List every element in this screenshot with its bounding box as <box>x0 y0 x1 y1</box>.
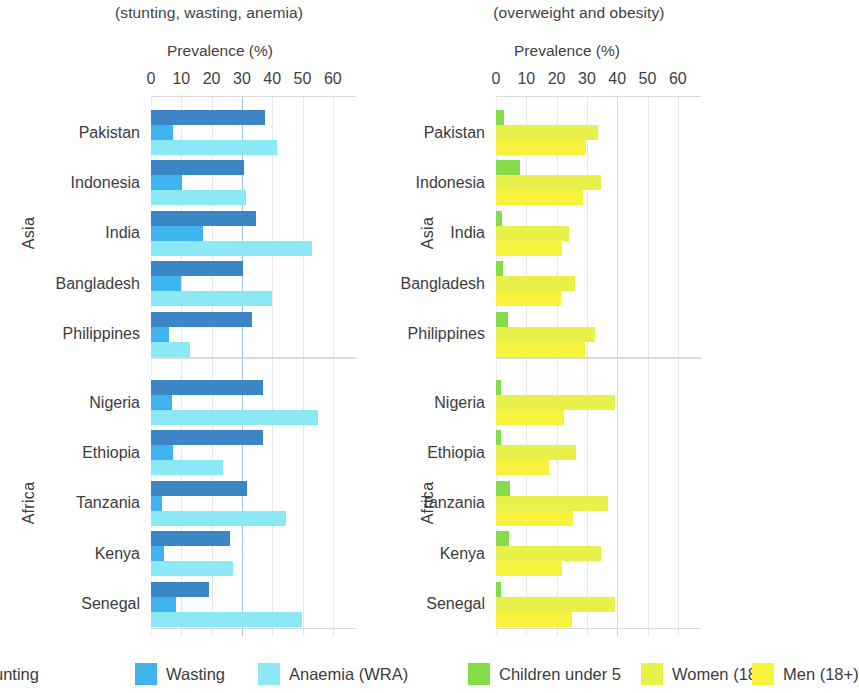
bar-tanzania-stunting <box>151 481 247 496</box>
legend-label: Men (18+) <box>783 665 859 684</box>
country-label-kenya: Kenya <box>95 545 140 563</box>
country-label-india: India <box>105 224 140 242</box>
bar-pakistan-wasting <box>151 125 173 140</box>
x-tick-60: 60 <box>669 70 687 88</box>
country-label-tanzania: Tanzania <box>76 494 140 512</box>
group-separator-africa-bottom <box>496 628 701 629</box>
bar-nigeria-women-18- <box>496 395 615 410</box>
legend-swatch-icon <box>258 663 280 685</box>
bar-ethiopia-stunting <box>151 430 263 445</box>
bar-indonesia-women-18- <box>496 175 601 190</box>
group-separator-top-africa <box>496 357 701 358</box>
bar-kenya-men-18- <box>496 561 562 576</box>
bar-senegal-stunting <box>151 582 209 597</box>
bar-philippines-anaemia-wra- <box>151 342 190 357</box>
legend-swatch-icon <box>752 663 774 685</box>
x-tick-40: 40 <box>608 70 626 88</box>
panel-right-plot-area <box>496 96 701 636</box>
country-label-pakistan: Pakistan <box>79 124 140 142</box>
bar-nigeria-stunting <box>151 380 263 395</box>
country-label-philippines: Philippines <box>63 325 140 343</box>
bar-indonesia-children-under-5 <box>496 160 520 175</box>
legend-label: Anaemia (WRA) <box>289 665 408 684</box>
country-label-bangladesh: Bangladesh <box>400 275 485 293</box>
country-label-senegal: Senegal <box>426 595 485 613</box>
bar-ethiopia-children-under-5 <box>496 430 501 445</box>
gridline-50 <box>303 96 304 636</box>
gridline-40 <box>617 96 618 636</box>
country-label-pakistan: Pakistan <box>424 124 485 142</box>
x-tick-30: 30 <box>578 70 596 88</box>
bar-philippines-men-18- <box>496 342 585 357</box>
bar-indonesia-men-18- <box>496 190 583 205</box>
legend-item-wasting[interactable]: Wasting <box>135 655 225 693</box>
bar-india-anaemia-wra- <box>151 241 312 256</box>
x-tick-50: 50 <box>294 70 312 88</box>
bar-philippines-children-under-5 <box>496 312 508 327</box>
panel-left-tick-labels: 0102030405060 <box>151 70 356 90</box>
legend-item-stunting[interactable]: unting <box>0 655 39 693</box>
bar-senegal-women-18- <box>496 597 615 612</box>
bar-indonesia-anaemia-wra- <box>151 190 246 205</box>
bar-pakistan-women-18- <box>496 125 598 140</box>
x-tick-10: 10 <box>517 70 535 88</box>
legend-item-children-under-5[interactable]: Children under 5 <box>468 655 621 693</box>
group-separator-top-asia <box>496 96 701 97</box>
bar-nigeria-wasting <box>151 395 172 410</box>
legend-swatch-icon <box>468 663 490 685</box>
x-tick-0: 0 <box>147 70 156 88</box>
bar-tanzania-children-under-5 <box>496 481 510 496</box>
bar-bangladesh-wasting <box>151 276 181 291</box>
bar-india-children-under-5 <box>496 211 502 226</box>
legend-item-anaemia-wra-[interactable]: Anaemia (WRA) <box>258 655 408 693</box>
group-separator-top-africa <box>151 357 356 358</box>
bar-pakistan-stunting <box>151 110 265 125</box>
bar-tanzania-women-18- <box>496 496 608 511</box>
bar-philippines-women-18- <box>496 327 595 342</box>
bar-senegal-wasting <box>151 597 176 612</box>
bar-kenya-wasting <box>151 546 164 561</box>
bar-pakistan-anaemia-wra- <box>151 140 277 155</box>
bar-kenya-women-18- <box>496 546 601 561</box>
bar-bangladesh-children-under-5 <box>496 261 503 276</box>
region-label-asia-right: Asia <box>419 217 437 249</box>
bar-tanzania-anaemia-wra- <box>151 511 286 526</box>
panel-right-tick-labels: 0102030405060 <box>496 70 701 90</box>
bar-nigeria-children-under-5 <box>496 380 501 395</box>
bar-indonesia-wasting <box>151 175 182 190</box>
gridline-60 <box>678 96 679 636</box>
bar-philippines-wasting <box>151 327 169 342</box>
bar-ethiopia-anaemia-wra- <box>151 460 223 475</box>
bar-senegal-children-under-5 <box>496 582 501 597</box>
bar-pakistan-men-18- <box>496 140 586 155</box>
gridline-20 <box>212 96 213 636</box>
bar-ethiopia-men-18- <box>496 460 549 475</box>
legend-swatch-icon <box>641 663 663 685</box>
group-separator-asia-bottom <box>496 358 701 359</box>
country-label-kenya: Kenya <box>440 545 485 563</box>
panel-right-country-labels: PakistanIndonesiaIndiaBangladeshPhilippi… <box>401 96 493 636</box>
legend-swatch-icon <box>135 663 157 685</box>
group-separator-asia-bottom <box>151 358 356 359</box>
legend-label: Children under 5 <box>499 665 621 684</box>
group-separator-africa-bottom <box>151 628 356 629</box>
country-label-indonesia: Indonesia <box>71 174 140 192</box>
bar-kenya-anaemia-wra- <box>151 561 233 576</box>
x-tick-40: 40 <box>263 70 281 88</box>
bar-nigeria-men-18- <box>496 410 564 425</box>
legend-label: Wasting <box>166 665 225 684</box>
x-tick-20: 20 <box>548 70 566 88</box>
region-label-asia-left: Asia <box>20 217 38 249</box>
bar-philippines-stunting <box>151 312 252 327</box>
country-label-nigeria: Nigeria <box>89 394 140 412</box>
legend-item-men-18-[interactable]: Men (18+) <box>752 655 859 693</box>
panel-left-axis-title: Prevalence (%) <box>0 42 400 60</box>
country-label-bangladesh: Bangladesh <box>55 275 140 293</box>
x-tick-10: 10 <box>172 70 190 88</box>
group-separator-top-asia <box>151 96 356 97</box>
x-tick-20: 20 <box>203 70 221 88</box>
x-tick-30: 30 <box>233 70 251 88</box>
bar-bangladesh-stunting <box>151 261 243 276</box>
bar-senegal-men-18- <box>496 612 572 627</box>
